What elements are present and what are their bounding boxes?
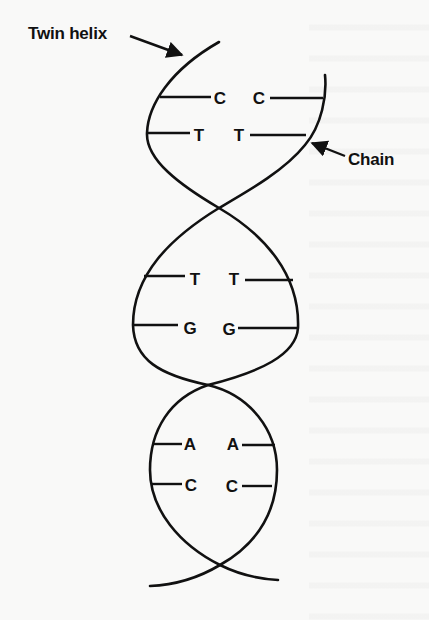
- twin-helix-label: Twin helix: [28, 24, 107, 44]
- base-4-left: G: [183, 320, 196, 337]
- strand-a: [147, 42, 298, 580]
- base-5-right: A: [227, 436, 239, 453]
- base-1-right: C: [253, 90, 265, 107]
- base-2-right: T: [234, 127, 244, 144]
- base-3-right: T: [229, 271, 239, 288]
- base-6-left: C: [185, 477, 197, 494]
- chain-arrow: [312, 143, 345, 156]
- base-6-right: C: [226, 478, 238, 495]
- base-2-left: T: [194, 127, 204, 144]
- base-4-right: G: [222, 321, 235, 338]
- base-5-left: A: [184, 436, 196, 453]
- base-1-left: C: [214, 90, 226, 107]
- twin-helix-arrow: [130, 36, 182, 55]
- dna-diagram: Twin helix Chain C C T T T T G G A A C C: [0, 0, 429, 620]
- chain-label: Chain: [348, 150, 394, 170]
- base-3-left: T: [190, 271, 200, 288]
